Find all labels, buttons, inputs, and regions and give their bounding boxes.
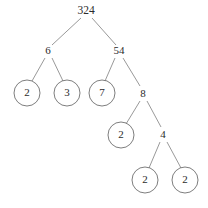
node-label: 2 — [24, 86, 30, 98]
node-label: 6 — [45, 44, 51, 56]
tree-node: 8 — [140, 87, 146, 99]
tree-edge — [52, 58, 63, 81]
node-label: 2 — [142, 173, 148, 185]
tree-node-prime: 3 — [54, 80, 80, 106]
tree-node: 54 — [114, 44, 126, 56]
factor-tree-canvas: 32465423782422 — [0, 0, 208, 208]
tree-edge — [123, 58, 140, 86]
node-label: 3 — [64, 86, 70, 98]
tree-node: 6 — [45, 44, 51, 56]
tree-edge — [167, 142, 181, 168]
tree-node-prime: 2 — [172, 167, 198, 193]
tree-node-prime: 2 — [132, 167, 158, 193]
tree-edge — [52, 18, 81, 45]
node-label: 54 — [114, 44, 126, 56]
node-label: 4 — [160, 128, 166, 140]
node-label: 2 — [118, 128, 124, 140]
tree-node-prime: 2 — [108, 122, 134, 148]
node-group: 32465423782422 — [14, 4, 198, 193]
tree-edge — [92, 18, 116, 45]
tree-edge — [149, 142, 160, 168]
tree-node-prime: 7 — [89, 80, 115, 106]
tree-edge — [147, 101, 161, 127]
tree-edge — [32, 58, 45, 81]
node-label: 7 — [99, 86, 105, 98]
node-label: 8 — [140, 87, 146, 99]
tree-edge — [126, 101, 140, 124]
tree-edge — [105, 58, 115, 81]
node-label: 2 — [182, 173, 188, 185]
factor-tree-figure: 32465423782422 — [0, 0, 208, 208]
tree-node: 4 — [160, 128, 166, 140]
tree-node: 324 — [77, 4, 95, 16]
tree-node-prime: 2 — [14, 80, 40, 106]
node-label: 324 — [77, 4, 95, 16]
